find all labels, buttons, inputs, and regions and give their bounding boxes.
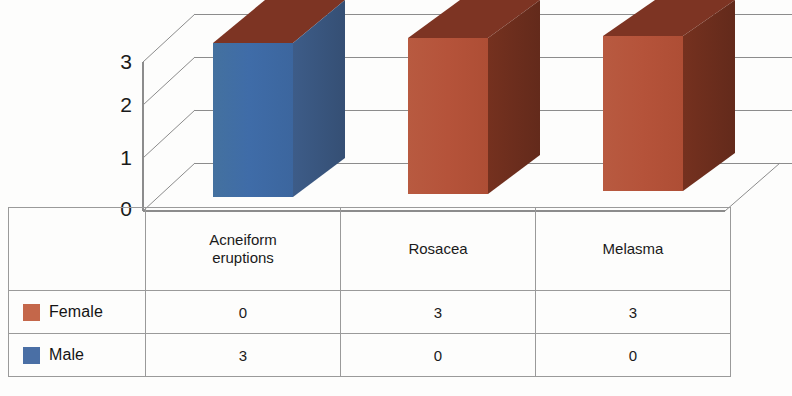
chart-screenshot: 3 2 1 0 Acneiform eruptions Rosacea Mela… <box>0 0 792 396</box>
legend-entry-female: Female <box>9 291 146 334</box>
chart-plot-area: 3 2 1 0 <box>0 0 792 215</box>
cell-female-rosacea: 3 <box>341 291 536 334</box>
floor-right-edge <box>725 163 780 211</box>
depth-line-3 <box>143 14 195 62</box>
legend-swatch-female-icon <box>23 304 40 321</box>
bar-melasma-female <box>603 0 735 191</box>
legend-swatch-male-icon <box>23 347 40 364</box>
cell-male-acneiform-eruptions: 3 <box>146 334 341 377</box>
depth-line-2 <box>143 57 195 105</box>
depth-line-1 <box>143 110 195 158</box>
table-header-row: Acneiform eruptions Rosacea Melasma <box>9 208 731 291</box>
bar-rosacea-female <box>408 0 540 194</box>
cell-female-melasma: 3 <box>536 291 731 334</box>
table-corner-cell <box>9 208 146 291</box>
category-label-line2: eruptions <box>146 249 340 267</box>
chart-data-table: Acneiform eruptions Rosacea Melasma Fema… <box>8 207 731 377</box>
cell-male-rosacea: 0 <box>341 334 536 377</box>
y-axis-tick-3: 3 <box>106 50 132 74</box>
table-header-acneiform-eruptions: Acneiform eruptions <box>146 208 341 291</box>
y-axis-tick-2: 2 <box>106 93 132 117</box>
legend-label-male: Male <box>49 346 84 364</box>
table-row: Male 3 0 0 <box>9 334 731 377</box>
bar-front-face <box>408 38 488 194</box>
cell-female-acneiform-eruptions: 0 <box>146 291 341 334</box>
table-header-melasma: Melasma <box>536 208 731 291</box>
table-row: Female 0 3 3 <box>9 291 731 334</box>
bar-front-face <box>213 43 293 197</box>
bar-front-face <box>603 36 683 191</box>
category-label-line1: Melasma <box>536 240 730 258</box>
depth-line-0 <box>143 163 195 211</box>
table-header-rosacea: Rosacea <box>341 208 536 291</box>
legend-label-female: Female <box>49 303 103 321</box>
bar-acneiform-eruptions-male <box>213 0 345 197</box>
category-label-line1: Acneiform <box>146 231 340 249</box>
legend-entry-male: Male <box>9 334 146 377</box>
category-label-line1: Rosacea <box>341 240 535 258</box>
cell-male-melasma: 0 <box>536 334 731 377</box>
y-axis-tick-1: 1 <box>106 146 132 170</box>
